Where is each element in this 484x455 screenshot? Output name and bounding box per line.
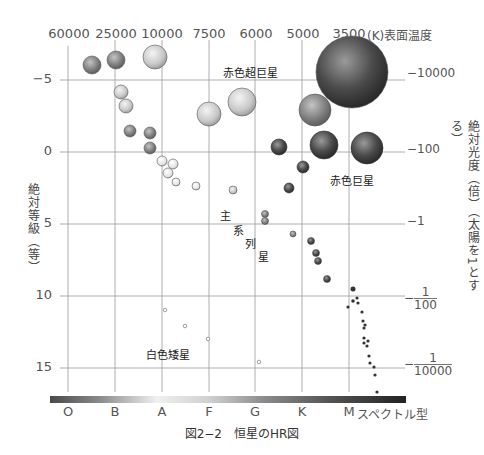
spectral-axis-unit: スペクトル型 — [357, 405, 428, 422]
spectral-type-label: B — [111, 404, 120, 419]
spectral-color-bar — [50, 396, 406, 403]
white-dwarf-label: 白色矮星 — [146, 346, 190, 362]
luminosity-tick-label: −100 — [407, 142, 440, 156]
magnitude-tick-label: 15 — [22, 359, 52, 374]
magnitude-tick-label: −5 — [22, 71, 52, 86]
temp-tick-label: 7500 — [192, 26, 225, 41]
luminosity-tick-label: −1100 — [404, 286, 437, 311]
figure-caption: 図2−2 恒星のHR図 — [185, 424, 300, 441]
red-supergiant-label: 赤色超巨星 — [223, 64, 278, 80]
spectral-type-label: F — [205, 404, 212, 419]
temp-tick-label: 10000 — [141, 26, 182, 41]
main-sequence-stars — [114, 85, 331, 283]
temp-tick-label: 6000 — [239, 26, 272, 41]
temp-tick-label: 3500 — [332, 26, 365, 41]
main-sequence-label-2: 系 — [233, 222, 244, 238]
spectral-type-label: G — [250, 404, 260, 419]
main-sequence-label-4: 星 — [258, 248, 269, 264]
main-sequence-label-3: 列 — [245, 235, 256, 251]
luminosity-axis-title: 絶対光度（倍）（太陽を1とする） — [447, 120, 481, 300]
luminosity-tick-label: −110000 — [404, 352, 452, 377]
luminosity-tick-label: −10000 — [407, 66, 455, 80]
luminosity-tick-label: −1 — [407, 214, 425, 228]
spectral-type-label: O — [63, 404, 73, 419]
spectral-type-label: M — [343, 404, 354, 419]
main-sequence-label-1: 主 — [220, 207, 231, 223]
magnitude-axis-title: 絶対等級（等） — [24, 183, 41, 274]
temp-tick-label: 5000 — [286, 26, 319, 41]
temp-axis-unit: (K)表面温度 — [367, 26, 432, 43]
magnitude-tick-label: 0 — [22, 143, 52, 158]
magnitude-tick-label: 10 — [22, 287, 52, 302]
red-giant-label: 赤色巨星 — [330, 172, 374, 188]
spectral-type-label: A — [158, 404, 167, 419]
spectral-type-label: K — [298, 404, 307, 419]
red-dwarf-stars — [346, 287, 378, 394]
temp-tick-label: 60000 — [48, 26, 89, 41]
temp-tick-label: 25000 — [95, 26, 136, 41]
